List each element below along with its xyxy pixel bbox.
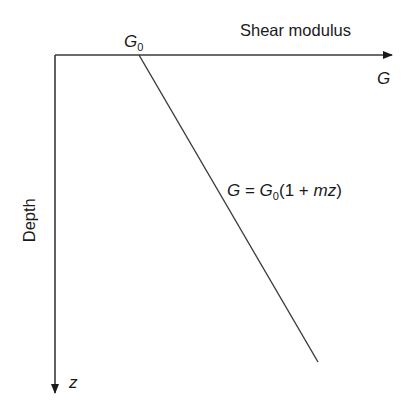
y-axis-symbol: z [69, 374, 78, 391]
x-axis-symbol: G [377, 70, 390, 87]
intercept-label: G0 [124, 33, 143, 50]
modulus-profile-line [139, 55, 318, 362]
equation-rhs-close: ) [336, 181, 342, 200]
equation-rhs-open: (1 + [279, 181, 314, 200]
diagram-canvas [0, 0, 413, 409]
equation-rhs-subscript: 0 [273, 190, 279, 202]
equation-lhs: G [227, 181, 240, 200]
y-axis-title: Depth [21, 195, 38, 245]
intercept-label-subscript: 0 [137, 41, 143, 53]
intercept-label-main: G [124, 32, 137, 51]
x-axis-title: Shear modulus [240, 22, 351, 39]
equation-label: G = G0(1 + mz) [227, 182, 342, 199]
equation-equals: = [240, 181, 259, 200]
equation-rhs-main: G [260, 181, 273, 200]
equation-rhs-variable: mz [313, 181, 336, 200]
